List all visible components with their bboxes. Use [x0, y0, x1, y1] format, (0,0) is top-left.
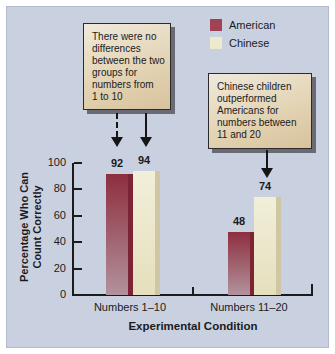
legend-swatch-chinese-icon [210, 37, 222, 49]
y-tick-label: 100 [32, 156, 66, 168]
legend-label-american: American [229, 19, 275, 31]
y-tick-label: 60 [32, 209, 66, 221]
bar-value-label: 92 [102, 157, 132, 169]
bar-value-label: 74 [250, 180, 280, 192]
legend-label-chinese: Chinese [229, 37, 269, 49]
y-tick-mark [74, 268, 82, 270]
x-axis-title: Experimental Condition [93, 320, 293, 332]
bar-american-group2 [228, 232, 255, 295]
dashed-arrow-line [116, 113, 118, 137]
y-tick-label: 80 [32, 182, 66, 194]
y-tick-mark [74, 215, 82, 217]
legend-swatch-american-icon [210, 19, 222, 31]
y-tick-mark [74, 294, 82, 296]
y-tick-mark [74, 162, 82, 164]
x-category-numbers-11-20: Numbers 11–20 [179, 301, 319, 313]
bar-chinese-group2 [254, 197, 281, 295]
bar-value-label: 94 [129, 154, 159, 166]
x-axis-end-tick [311, 284, 313, 294]
bar-chinese-group1 [133, 171, 160, 295]
bar-american-group1 [106, 174, 133, 295]
y-tick-mark [74, 241, 82, 243]
y-tick-label: 20 [32, 262, 66, 274]
annotation-box-left: There were no differences between the tw… [83, 23, 171, 110]
bar-value-label: 48 [224, 215, 254, 227]
solid-arrow-line-right [266, 150, 268, 168]
legend-item-american: American [210, 19, 275, 31]
x-axis-mid-tick [192, 287, 194, 294]
solid-arrow-line-left [145, 113, 147, 137]
y-axis-line [72, 163, 74, 296]
annotation-box-right: Chinese children outperformed Americans … [208, 73, 312, 149]
solid-arrow-head-left-icon [140, 137, 152, 147]
legend: American Chinese [210, 19, 275, 55]
y-tick-label: 40 [32, 235, 66, 247]
y-tick-mark [74, 188, 82, 190]
dashed-arrow-head-icon [111, 137, 123, 147]
y-tick-label: 0 [32, 288, 66, 300]
figure: Percentage Who Can Count Correctly 02040… [0, 0, 335, 354]
legend-item-chinese: Chinese [210, 37, 275, 49]
solid-arrow-head-right-icon [261, 168, 273, 178]
y-axis-title: Percentage Who Can Count Correctly [18, 151, 46, 303]
